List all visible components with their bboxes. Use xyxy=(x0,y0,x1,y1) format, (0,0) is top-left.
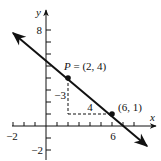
point-6-1 xyxy=(109,111,115,117)
point-p-label-text: = (2, 4) xyxy=(71,60,107,73)
coordinate-graph: x y −2 6 8 −2 −3 4 P = (2, 4) (6, 1) xyxy=(0,0,161,161)
x-tick-label-neg2: −2 xyxy=(6,130,18,142)
point-p-label: P = (2, 4) xyxy=(63,60,107,73)
x-axis-ticks xyxy=(13,122,134,126)
graph-line xyxy=(13,33,147,146)
y-axis-label: y xyxy=(35,6,41,18)
y-axis-ticks xyxy=(46,30,51,150)
rise-label: −3 xyxy=(54,89,66,101)
y-tick-label-8: 8 xyxy=(37,24,43,36)
point-p xyxy=(65,75,71,81)
point-6-1-label: (6, 1) xyxy=(118,101,142,114)
x-axis-label: x xyxy=(149,111,155,123)
x-tick-label-6: 6 xyxy=(110,130,116,142)
y-tick-label-neg2: −2 xyxy=(31,144,43,156)
run-label: 4 xyxy=(87,101,93,113)
